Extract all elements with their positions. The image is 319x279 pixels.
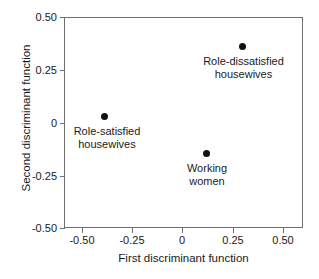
y-tick-label: -0.50 bbox=[17, 222, 57, 234]
data-point bbox=[239, 43, 246, 50]
x-tick-mark bbox=[283, 228, 284, 233]
point-annotation-role-dissatisfied: Role-dissatisfied housewives bbox=[186, 55, 301, 81]
y-tick-mark bbox=[60, 17, 65, 18]
y-tick-mark bbox=[60, 123, 65, 124]
annotation-line-2: housewives bbox=[186, 68, 301, 81]
x-tick-label: 0.25 bbox=[210, 234, 256, 246]
annotation-line-1: Working bbox=[167, 162, 247, 175]
y-tick-mark bbox=[60, 228, 65, 229]
y-axis-title: Second discriminant function bbox=[20, 28, 32, 208]
point-annotation-working-women: Working women bbox=[167, 162, 247, 188]
annotation-line-1: Role-satisfied bbox=[61, 125, 153, 138]
x-tick-label: -0.50 bbox=[59, 234, 105, 246]
data-point bbox=[203, 150, 210, 157]
data-point bbox=[101, 113, 108, 120]
x-tick-mark bbox=[82, 228, 83, 233]
y-tick-mark bbox=[60, 176, 65, 177]
plot-area bbox=[64, 17, 303, 228]
annotation-line-2: women bbox=[167, 175, 247, 188]
x-tick-label: 0 bbox=[159, 234, 205, 246]
annotation-line-2: housewives bbox=[61, 138, 153, 151]
chart-figure: -0.50 -0.25 0 0.25 0.50 0.50 0.25 0 -0.2… bbox=[0, 0, 319, 279]
point-annotation-role-satisfied: Role-satisfied housewives bbox=[61, 125, 153, 151]
x-tick-mark bbox=[182, 228, 183, 233]
y-tick-mark bbox=[60, 70, 65, 71]
x-tick-mark bbox=[132, 228, 133, 233]
annotation-line-1: Role-dissatisfied bbox=[186, 55, 301, 68]
x-tick-label: -0.25 bbox=[109, 234, 155, 246]
x-tick-mark bbox=[233, 228, 234, 233]
y-tick-label: 0.50 bbox=[17, 11, 57, 23]
x-axis-title: First discriminant function bbox=[64, 252, 303, 264]
x-tick-label: 0.50 bbox=[260, 234, 306, 246]
